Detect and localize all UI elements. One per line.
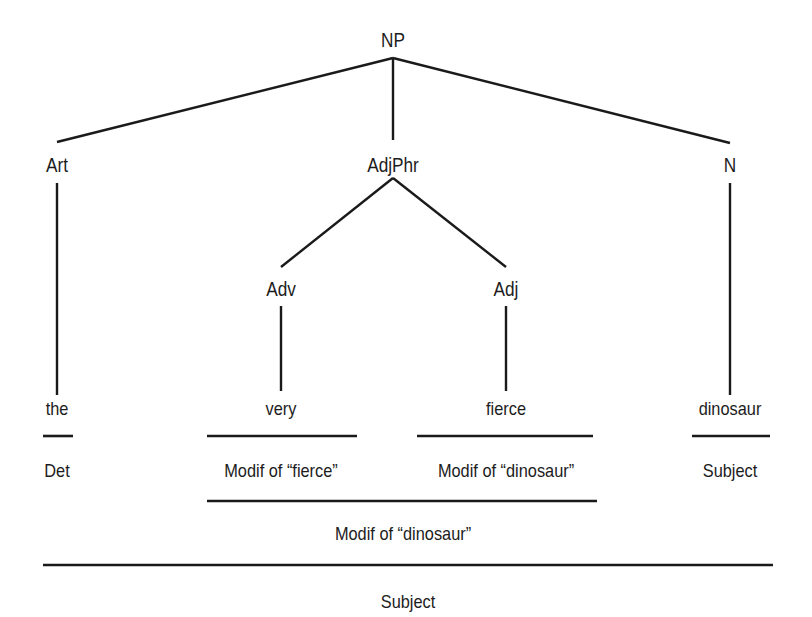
node-adjphr: AdjPhr	[367, 155, 419, 175]
function-det: Det	[44, 461, 69, 480]
function-np-subject: Subject	[381, 592, 436, 611]
node-adv: Adv	[266, 279, 296, 299]
function-subject-noun: Subject	[703, 461, 758, 480]
syntax-tree-diagram: NP Art AdjPhr N Adv Adj the very fierce …	[0, 0, 812, 617]
word-dinosaur: dinosaur	[699, 399, 762, 418]
word-very: very	[266, 399, 297, 418]
node-n: N	[724, 155, 736, 175]
function-modif-dinosaur: Modif of “dinosaur”	[438, 461, 574, 480]
edge-np-n	[393, 58, 730, 143]
function-adjphr-modif-dinosaur: Modif of “dinosaur”	[335, 524, 471, 543]
node-np: NP	[381, 30, 405, 50]
node-adj: Adj	[494, 279, 519, 299]
edge-adjphr-adv	[281, 178, 393, 267]
node-art: Art	[46, 155, 68, 175]
word-fierce: fierce	[486, 399, 526, 418]
edge-np-art	[57, 58, 393, 142]
edge-adjphr-adj	[393, 178, 506, 267]
function-modif-fierce: Modif of “fierce”	[224, 461, 338, 480]
word-the: the	[46, 399, 69, 418]
